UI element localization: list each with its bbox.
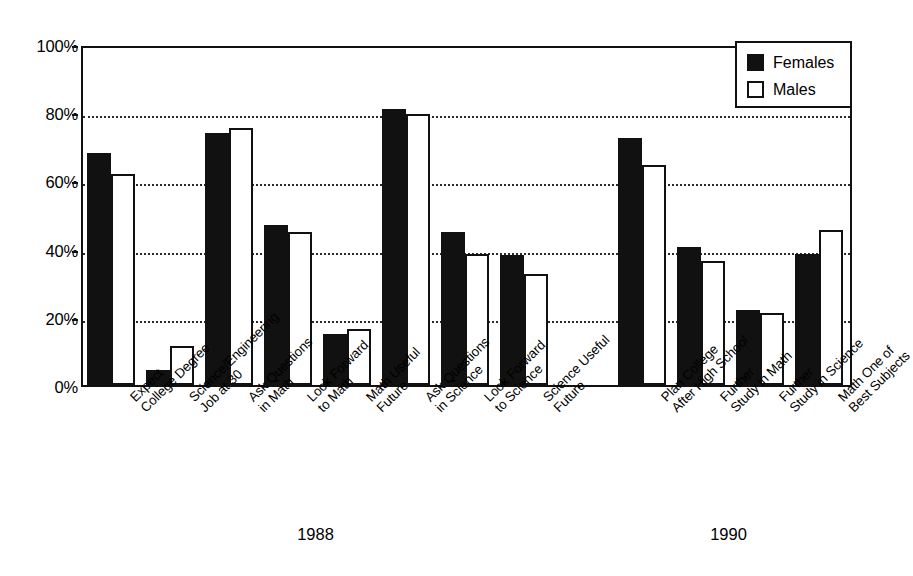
bar-males <box>111 174 135 385</box>
x-axis-group-label: 1990 <box>710 525 747 544</box>
legend-swatch-females-icon <box>747 54 764 71</box>
legend-label-males: Males <box>773 81 816 99</box>
y-axis-tick-mark <box>72 182 78 184</box>
y-axis-tick-label: 0% <box>55 378 78 397</box>
legend-item-females: Females <box>747 49 850 76</box>
legend-label-females: Females <box>773 54 834 72</box>
bar-males <box>406 114 430 385</box>
y-axis-tick-mark <box>72 319 78 321</box>
legend: Females Males <box>735 41 852 108</box>
y-axis-tick-mark <box>72 114 78 116</box>
y-axis: 0%20%40%60%80%100% <box>0 0 78 576</box>
legend-item-males: Males <box>747 76 850 103</box>
x-axis-group-label: 1988 <box>297 525 334 544</box>
bar-females <box>618 138 642 385</box>
y-axis-tick-mark <box>72 46 78 48</box>
y-axis-tick-mark <box>72 251 78 253</box>
bar-males <box>642 165 666 385</box>
legend-swatch-males-icon <box>747 81 764 98</box>
bar-females <box>87 153 111 385</box>
bar-females <box>382 109 406 385</box>
